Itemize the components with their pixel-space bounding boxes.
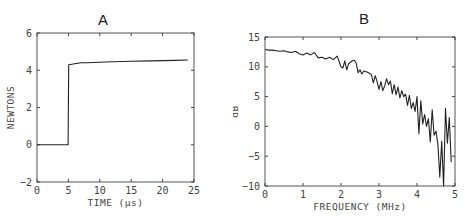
y-tick-label: 4 (26, 65, 32, 76)
chart-a: A0510152025−20246TIME (µs)NEWTONS (0, 0, 233, 218)
plot-frame (265, 37, 455, 186)
x-tick-label: 10 (94, 185, 106, 196)
chart-a-plot: A0510152025−20246TIME (µs)NEWTONS (0, 0, 233, 218)
plot-frame (37, 33, 194, 182)
x-tick-label: 20 (157, 185, 169, 196)
x-tick-label: 15 (125, 185, 137, 196)
y-tick-label: 10 (248, 61, 260, 72)
chart-b: B012345−10−5051015FREQUENCY (MHz)dB (233, 0, 466, 218)
y-tick-label: 0 (254, 121, 260, 132)
y-tick-label: −5 (248, 151, 260, 162)
x-axis-label: TIME (µs) (88, 197, 144, 208)
y-tick-label: −2 (20, 177, 32, 188)
data-line-spectrum (265, 50, 451, 187)
x-tick-label: 2 (338, 189, 344, 200)
y-tick-label: −10 (242, 181, 260, 192)
x-tick-label: 25 (188, 185, 200, 196)
y-tick-label: 0 (26, 139, 32, 150)
y-tick-label: 5 (254, 91, 260, 102)
chart-b-plot: B012345−10−5051015FREQUENCY (MHz)dB (233, 0, 466, 218)
y-tick-label: 2 (26, 102, 32, 113)
x-tick-label: 5 (65, 185, 71, 196)
x-tick-label: 5 (452, 189, 458, 200)
y-tick-label: 15 (248, 32, 260, 43)
x-tick-label: 0 (34, 185, 40, 196)
data-line-force (37, 60, 188, 145)
chart-title: B (359, 10, 369, 27)
y-tick-label: 6 (26, 28, 32, 39)
x-tick-label: 4 (414, 189, 420, 200)
x-axis-label: FREQUENCY (MHz) (313, 201, 406, 212)
y-axis-label: NEWTONS (5, 86, 16, 130)
x-tick-label: 0 (262, 189, 268, 200)
y-axis-label: dB (233, 105, 240, 117)
x-tick-label: 3 (376, 189, 382, 200)
chart-title: A (98, 11, 108, 28)
x-tick-label: 1 (300, 189, 306, 200)
